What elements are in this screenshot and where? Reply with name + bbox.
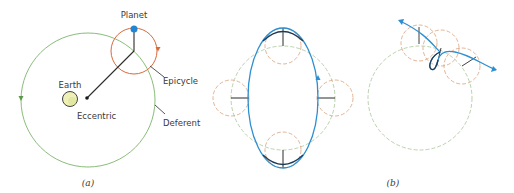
- deferent-label: Deferent: [163, 118, 201, 128]
- earth-label: Earth: [59, 80, 82, 90]
- planet-dot: [131, 26, 138, 33]
- caption-b: (b): [387, 178, 400, 188]
- deferent-arrow-icon: [19, 96, 24, 101]
- earth-highlight: [68, 97, 76, 105]
- planet-path-ellipse: [248, 28, 318, 168]
- eccentric-label: Eccentric: [77, 111, 117, 121]
- retrograde-path: [400, 21, 496, 70]
- epicycle-arrow-icon: [156, 47, 161, 52]
- epicycle-leader-line: [150, 66, 164, 77]
- deferent-circle: [21, 33, 155, 167]
- epicycle-diagram: Planet Epicycle Earth Eccentric Deferent…: [0, 0, 514, 193]
- panel-a: Planet Epicycle Earth Eccentric Deferent…: [19, 10, 201, 188]
- eccentric-dot: [85, 96, 89, 100]
- path-arrow-right-icon: [491, 66, 497, 72]
- dashed-deferent-circle-2: [368, 46, 472, 150]
- eccentric-to-epicycle-line: [87, 51, 134, 98]
- planet-label: Planet: [121, 10, 148, 20]
- panel-b-loop: (b): [368, 19, 497, 188]
- epicycle-label: Epicycle: [163, 76, 198, 86]
- caption-a: (a): [82, 178, 95, 188]
- deferent-leader-line: [155, 105, 165, 114]
- panel-b-ellipse: [213, 28, 353, 168]
